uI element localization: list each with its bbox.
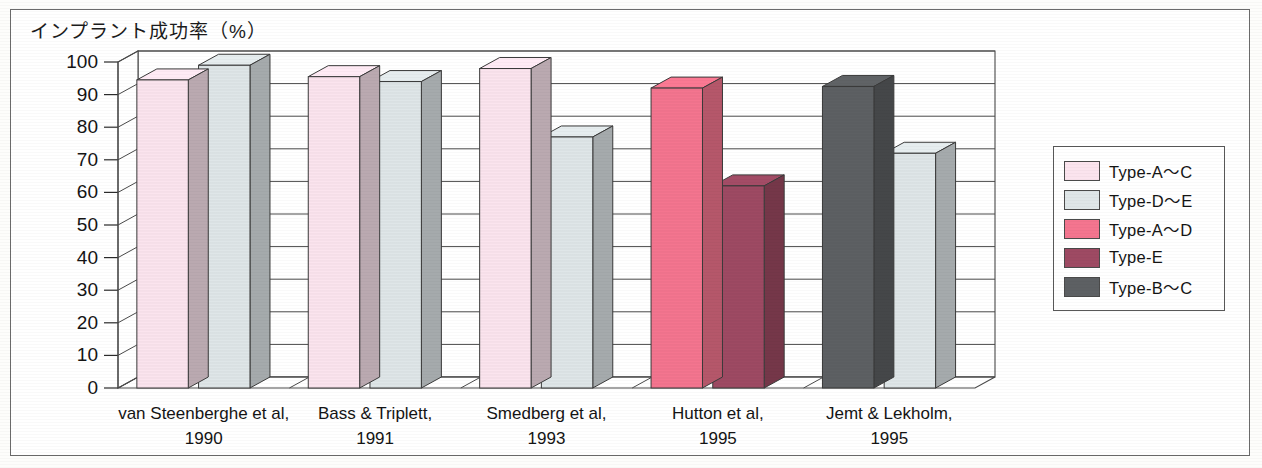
- bar-TypeAC-g1: [308, 66, 379, 388]
- bar-TypeDE-g4: [884, 142, 955, 388]
- y-tick-label: 20: [46, 312, 98, 334]
- legend-swatch: [1064, 219, 1100, 239]
- chart-figure: インプラント成功率（%） 0102030405060708090100 van …: [0, 0, 1262, 468]
- bar-TypeDE-g2: [541, 126, 612, 388]
- legend-label: Type-E: [1109, 248, 1163, 267]
- y-tick-label: 60: [46, 181, 98, 203]
- legend-swatch: [1064, 248, 1100, 268]
- bar-TypeAD-g3: [651, 77, 722, 388]
- x-axis-label: Jemt & Lekholm,1995: [804, 402, 975, 451]
- legend-label: Type-B～C: [1109, 275, 1193, 299]
- x-axis-label: Hutton et al,1995: [632, 402, 803, 451]
- legend-swatch: [1064, 190, 1100, 210]
- y-tick-label: 0: [46, 377, 98, 399]
- y-tick-label: 10: [46, 344, 98, 366]
- legend-swatch: [1064, 161, 1100, 181]
- bar-TypeAC-g0: [137, 69, 208, 388]
- legend-item: Type-B～C: [1064, 272, 1216, 301]
- x-axis-label: Smedberg et al,1993: [461, 402, 632, 451]
- legend-label: Type-A～C: [1109, 159, 1193, 183]
- legend: Type-A～CType-D～EType-A～DType-EType-B～C: [1053, 146, 1225, 311]
- legend-item: Type-E: [1064, 243, 1216, 272]
- x-axis-label: Bass & Triplett,1991: [289, 402, 460, 451]
- bar-TypeDE-g0: [199, 54, 270, 388]
- y-tick-label: 80: [46, 116, 98, 138]
- legend-item: Type-A～C: [1064, 156, 1216, 185]
- y-tick-label: 40: [46, 247, 98, 269]
- legend-label: Type-A～D: [1109, 217, 1193, 241]
- legend-swatch: [1064, 277, 1100, 297]
- y-tick-label: 100: [46, 51, 98, 73]
- y-tick-label: 50: [46, 214, 98, 236]
- y-tick-label: 90: [46, 84, 98, 106]
- legend-item: Type-A～D: [1064, 214, 1216, 243]
- y-tick-label: 30: [46, 279, 98, 301]
- legend-label: Type-D～E: [1109, 188, 1193, 212]
- bar-TypeE-g3: [713, 175, 784, 388]
- bar-TypeAC-g2: [480, 58, 551, 388]
- bar-TypeBC-g4: [822, 75, 893, 388]
- bar-TypeDE-g1: [370, 71, 441, 388]
- legend-item: Type-D～E: [1064, 185, 1216, 214]
- y-tick-label: 70: [46, 149, 98, 171]
- x-axis-label: van Steenberghe et al,1990: [118, 402, 289, 451]
